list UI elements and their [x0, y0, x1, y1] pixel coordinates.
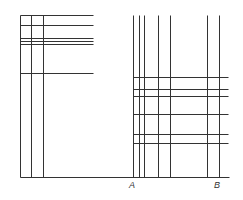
diagram-canvas	[0, 0, 243, 200]
label-a: A	[129, 180, 135, 190]
label-b: B	[214, 180, 220, 190]
